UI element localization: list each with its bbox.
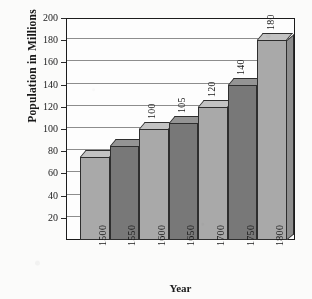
bar-value-label: 140 xyxy=(236,59,246,75)
y-tick-label: 100 xyxy=(32,124,58,134)
bar xyxy=(228,85,258,240)
bar xyxy=(169,123,199,240)
bar-value-label: 100 xyxy=(147,103,157,119)
x-axis-title: Year xyxy=(66,282,295,294)
y-tick-label: 60 xyxy=(32,168,58,178)
chart-figure: Population in Millions 20406080100120140… xyxy=(0,0,312,299)
y-tick-label: 200 xyxy=(32,13,58,23)
x-tick-label: 1800 xyxy=(275,225,285,246)
y-tick-label: 120 xyxy=(32,102,58,112)
bar xyxy=(257,40,287,240)
bar xyxy=(139,129,169,240)
y-tick-label: 20 xyxy=(32,213,58,223)
bar-front-face xyxy=(198,107,228,240)
bar-front-face xyxy=(228,85,258,240)
x-tick-label: 1750 xyxy=(246,225,256,246)
x-tick-label: 1500 xyxy=(98,225,108,246)
x-tick-label: 1650 xyxy=(186,225,196,246)
bar-front-face xyxy=(169,123,199,240)
y-tick-label: 160 xyxy=(32,57,58,67)
bar-value-label: 105 xyxy=(177,98,187,114)
bar-front-face xyxy=(257,40,287,240)
bar-series: 100105120140180 xyxy=(66,18,295,240)
x-axis-ticks: 1500155016001650170017501800 xyxy=(66,240,295,285)
bar-side-face xyxy=(287,34,294,240)
y-tick-label: 40 xyxy=(32,191,58,201)
bar-front-face xyxy=(139,129,169,240)
y-tick-label: 140 xyxy=(32,80,58,90)
bar-value-label: 180 xyxy=(266,14,276,30)
x-tick-label: 1700 xyxy=(216,225,226,246)
y-tick-label: 180 xyxy=(32,35,58,45)
bar xyxy=(198,107,228,240)
y-axis-ticks: 20406080100120140160180200 xyxy=(0,0,62,299)
y-tick-label: 80 xyxy=(32,146,58,156)
x-tick-label: 1600 xyxy=(157,225,167,246)
x-tick-label: 1550 xyxy=(127,225,137,246)
bar-value-label: 120 xyxy=(207,81,217,97)
